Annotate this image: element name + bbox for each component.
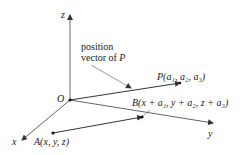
- x-axis-label: x: [12, 136, 16, 147]
- point-a: [51, 131, 54, 134]
- vector-a-to-b: [53, 117, 142, 133]
- origin-point: [68, 98, 71, 101]
- point-a-label: A(x, y, z): [34, 136, 69, 147]
- z-axis-label: z: [61, 9, 65, 20]
- x-axis: [22, 100, 70, 140]
- annotation-line2-var: P: [119, 52, 125, 63]
- y-axis-label: y: [208, 128, 212, 139]
- point-p-coords: (a₁, a₂, a₃): [163, 71, 205, 82]
- annotation-leader: [91, 65, 131, 88]
- point-p: [179, 82, 181, 84]
- point-b-coords: (x + a₁, y + a₂, z + a₃): [138, 97, 228, 108]
- annotation-line1: position: [81, 41, 113, 52]
- annotation-line2: vector of P: [81, 52, 125, 63]
- annotation-line2-prefix: vector of: [81, 52, 119, 63]
- point-p-label: P(a₁, a₂, a₃): [157, 71, 205, 82]
- point-b-label: B(x + a₁, y + a₂, z + a₃): [132, 97, 228, 108]
- origin-label: O: [57, 93, 64, 104]
- point-a-coords: (x, y, z): [40, 136, 69, 147]
